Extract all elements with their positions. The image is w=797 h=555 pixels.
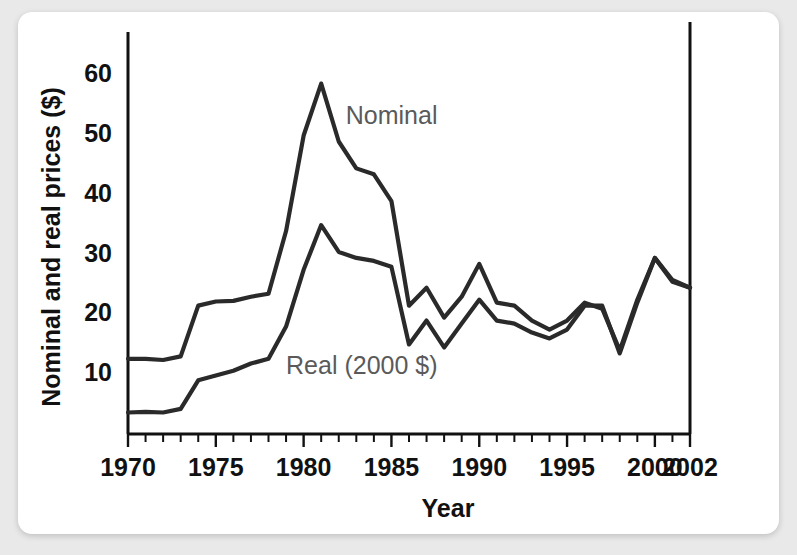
x-axis	[128, 434, 690, 447]
y-tick-label: 60	[84, 59, 112, 87]
series-line-real	[128, 225, 690, 412]
y-tick-label: 30	[84, 239, 112, 267]
y-axis-title: Nominal and real prices ($)	[37, 87, 65, 407]
y-tick-label: 40	[84, 179, 112, 207]
series-annotation-real: Real (2000 $)	[286, 351, 437, 379]
y-tick-label: 20	[84, 298, 112, 326]
y-tick-labels: 102030405060	[84, 59, 112, 385]
x-tick-label: 1980	[276, 453, 332, 481]
x-tick-labels: 19701975198019851990199520002002	[100, 453, 718, 481]
x-tick-label: 1990	[451, 453, 507, 481]
series-annotation-nominal: Nominal	[346, 101, 438, 129]
y-tick-label: 10	[84, 358, 112, 386]
x-axis-title: Year	[422, 494, 475, 522]
chart-plot-area: 102030405060 197019751980198519901995200…	[18, 12, 779, 534]
line-chart: 102030405060 197019751980198519901995200…	[18, 12, 779, 534]
chart-card: 102030405060 197019751980198519901995200…	[18, 12, 779, 534]
x-tick-label: 1985	[364, 453, 420, 481]
x-tick-label: 1995	[539, 453, 595, 481]
x-tick-label: 1975	[188, 453, 244, 481]
x-tick-label: 2002	[662, 453, 718, 481]
y-tick-label: 50	[84, 119, 112, 147]
x-tick-label: 1970	[100, 453, 156, 481]
